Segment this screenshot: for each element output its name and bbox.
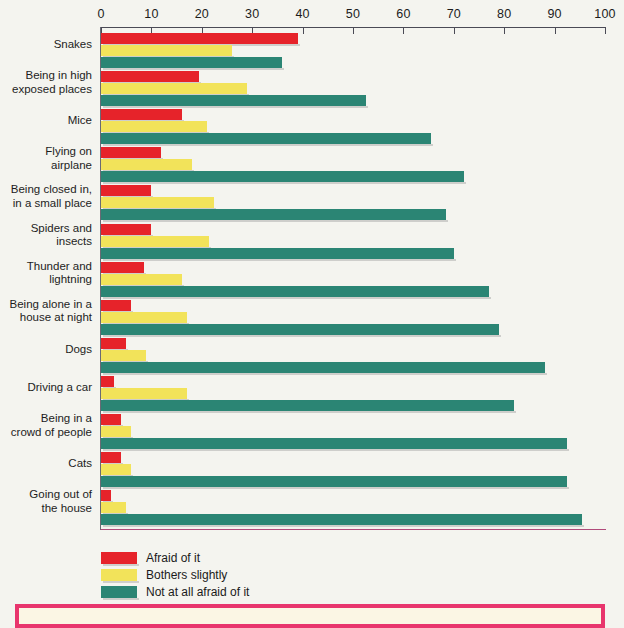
bar-shadow [103, 297, 491, 299]
bar-fill [101, 209, 446, 220]
bar-shadow [103, 335, 501, 337]
bar-fill [101, 33, 298, 44]
bar-shadow [103, 144, 433, 146]
bar-fill [101, 45, 232, 56]
x-axis-tick [605, 27, 606, 34]
bar-fill [101, 274, 182, 285]
bar-fill [101, 514, 582, 525]
bar-bothers-slightly [101, 426, 131, 437]
bar-fill [101, 109, 182, 120]
bar-fill [101, 171, 464, 182]
chart-legend: Afraid of itBothers slightlyNot at all a… [101, 549, 249, 600]
bars [101, 33, 298, 69]
category-label-line: Thunder and [0, 260, 92, 274]
legend-swatch [101, 552, 137, 564]
x-axis-tick-label: 80 [497, 7, 511, 21]
legend-item: Afraid of it [101, 549, 249, 566]
bar-not-at-all-afraid [101, 57, 282, 68]
category-label-line: Going out of [0, 488, 92, 502]
category-label-line: Being in high [0, 69, 92, 83]
bars [101, 376, 514, 412]
bar-shadow [103, 68, 284, 70]
x-axis-tick-label: 10 [144, 7, 158, 21]
callout-box [15, 604, 605, 628]
bar-fill [101, 147, 161, 158]
category-label-line: the house [0, 502, 92, 516]
bar-not-at-all-afraid [101, 438, 567, 449]
category-label: Thunder andlightning [0, 260, 92, 287]
legend-swatch [101, 586, 137, 598]
x-axis-tick [403, 27, 404, 34]
bar-fill [101, 185, 151, 196]
category-label-line: airplane [0, 159, 92, 173]
category-label: Being closed in,in a small place [0, 183, 92, 210]
bar-fill [101, 362, 545, 373]
bar-shadow [103, 449, 569, 451]
category-label-line: Cats [0, 457, 92, 471]
category-label: Driving a car [0, 381, 92, 395]
bar-fill [101, 83, 247, 94]
bar-fill [101, 476, 567, 487]
bar-not-at-all-afraid [101, 95, 366, 106]
bars [101, 185, 446, 221]
category-label: Being in acrowd of people [0, 412, 92, 439]
bar-fill [101, 236, 209, 247]
category-label-line: insects [0, 235, 92, 249]
bar-bothers-slightly [101, 312, 187, 323]
bar-shadow [103, 525, 584, 527]
category-label: Mice [0, 114, 92, 128]
x-axis-tick [303, 27, 304, 34]
category-label-line: lightning [0, 273, 92, 287]
bars [101, 452, 567, 488]
bar-afraid-of-it [101, 33, 298, 44]
bar-bothers-slightly [101, 159, 192, 170]
x-axis-tick-label: 70 [447, 7, 461, 21]
category-label-line: in a small place [0, 197, 92, 211]
bars [101, 147, 464, 183]
bar-shadow [103, 220, 448, 222]
bar-bothers-slightly [101, 45, 232, 56]
bar-not-at-all-afraid [101, 362, 545, 373]
bar-shadow [103, 487, 569, 489]
bar-shadow [103, 373, 547, 375]
x-axis-tick-label: 100 [594, 7, 615, 21]
bar-bothers-slightly [101, 274, 182, 285]
legend-item: Bothers slightly [101, 566, 249, 583]
bar-afraid-of-it [101, 224, 151, 235]
bar-fill [101, 224, 151, 235]
legend-item: Not at all afraid of it [101, 583, 249, 600]
category-label-line: house at night [0, 311, 92, 325]
x-axis-tick-label: 90 [547, 7, 561, 21]
category-label: Being alone in ahouse at night [0, 298, 92, 325]
bar-fill [101, 438, 567, 449]
category-label-line: crowd of people [0, 426, 92, 440]
bars [101, 71, 366, 107]
bar-fill [101, 426, 131, 437]
legend-swatch [101, 569, 137, 581]
bar-fill [101, 197, 214, 208]
bar-fill [101, 121, 207, 132]
bar-not-at-all-afraid [101, 514, 582, 525]
bar-shadow [103, 182, 466, 184]
bar-not-at-all-afraid [101, 286, 489, 297]
bar-fill [101, 464, 131, 475]
bar-not-at-all-afraid [101, 171, 464, 182]
bar-fill [101, 376, 114, 387]
fear-survey-bar-chart: 0102030405060708090100 SnakesBeing in hi… [0, 0, 624, 628]
category-label-line: Being alone in a [0, 298, 92, 312]
category-label-line: Spiders and [0, 222, 92, 236]
category-label-line: Being in a [0, 412, 92, 426]
bar-afraid-of-it [101, 147, 161, 158]
chart-baseline [101, 529, 606, 530]
bars [101, 338, 545, 374]
bar-bothers-slightly [101, 502, 126, 513]
bars [101, 300, 499, 336]
category-label-line: Mice [0, 114, 92, 128]
category-label: Going out ofthe house [0, 488, 92, 515]
category-label-line: Dogs [0, 343, 92, 357]
bar-afraid-of-it [101, 300, 131, 311]
bar-fill [101, 133, 431, 144]
category-label: Snakes [0, 38, 92, 52]
bar-bothers-slightly [101, 121, 207, 132]
bar-shadow [103, 106, 368, 108]
